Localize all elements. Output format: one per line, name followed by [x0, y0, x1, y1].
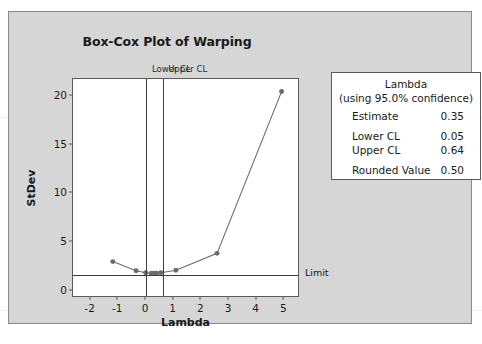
legend-key: Rounded Value — [352, 163, 431, 177]
legend-row-upper-cl: Upper CL 0.64 — [332, 143, 480, 157]
y-axis-tick-label: 5 — [60, 235, 67, 247]
x-axis-tick-label: -1 — [112, 302, 122, 314]
legend-key: Estimate — [352, 109, 398, 123]
y-axis-tick-mark — [69, 290, 73, 291]
x-axis-tick-mark — [117, 296, 118, 300]
legend-row-lower-cl: Lower CL 0.05 — [332, 129, 480, 143]
legend-subtitle: (using 95.0% confidence) — [332, 92, 480, 104]
legend-row-rounded-value: Rounded Value 0.50 — [332, 163, 480, 177]
legend-value: 0.64 — [436, 143, 464, 157]
legend-key: Upper CL — [352, 143, 400, 157]
x-axis-tick-label: 4 — [252, 302, 259, 314]
y-axis-title: StDev — [25, 170, 38, 207]
legend-row-estimate: Estimate 0.35 — [332, 109, 480, 123]
x-axis-tick-mark — [89, 296, 90, 300]
reference-line-upper-cl — [163, 79, 164, 296]
legend-key: Lower CL — [352, 129, 400, 143]
series-data-point — [134, 268, 139, 273]
x-axis-tick-mark — [200, 296, 201, 300]
y-axis-tick-mark — [69, 143, 73, 144]
y-axis-tick-label: 20 — [54, 89, 67, 101]
chart-figure-panel: Box-Cox Plot of Warping StDev Lambda 051… — [8, 11, 472, 324]
x-axis-tick-mark — [172, 296, 173, 300]
series-data-point — [173, 268, 178, 273]
series-data-point — [279, 89, 284, 94]
x-axis-tick-mark — [144, 296, 145, 300]
reference-line-lower-cl — [146, 79, 147, 296]
plot-inner — [73, 79, 298, 296]
x-axis-tick-label: 2 — [197, 302, 204, 314]
reference-label-limit: Limit — [305, 267, 329, 278]
x-axis-tick-mark — [283, 296, 284, 300]
y-axis-tick-mark — [69, 94, 73, 95]
x-axis-tick-label: 3 — [225, 302, 232, 314]
y-axis-tick-mark — [69, 192, 73, 193]
reference-label-upper-cl: Upper CL — [168, 64, 207, 74]
x-axis-tick-mark — [255, 296, 256, 300]
lambda-summary-box: Lambda (using 95.0% confidence) Estimate… — [331, 72, 481, 180]
legend-title: Lambda — [332, 78, 480, 90]
legend-value: 0.50 — [436, 163, 464, 177]
legend-value: 0.35 — [436, 109, 464, 123]
plot-area: 05101520-2-1012345 — [72, 78, 299, 297]
series-line — [113, 92, 282, 274]
series-data-point — [215, 251, 220, 256]
series-data-point — [110, 259, 115, 264]
y-axis-tick-label: 0 — [60, 284, 67, 296]
data-series-layer — [73, 79, 298, 296]
x-axis-title: Lambda — [72, 316, 299, 329]
x-axis-tick-label: 1 — [169, 302, 176, 314]
x-axis-tick-label: 5 — [280, 302, 287, 314]
y-axis-tick-label: 15 — [54, 138, 67, 150]
screenshot-root: Box-Cox Plot of Warping StDev Lambda 051… — [0, 0, 482, 344]
x-axis-tick-label: 0 — [142, 302, 149, 314]
y-axis-tick-label: 10 — [54, 186, 67, 198]
legend-value: 0.05 — [436, 129, 464, 143]
reference-line-limit — [73, 275, 298, 276]
y-axis-tick-mark — [69, 241, 73, 242]
chart-title: Box-Cox Plot of Warping — [9, 34, 325, 49]
x-axis-tick-label: -2 — [84, 302, 94, 314]
x-axis-tick-mark — [228, 296, 229, 300]
